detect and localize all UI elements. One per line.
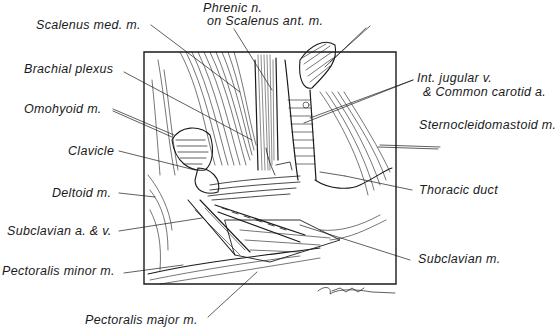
label-thoracic-duct: Thoracic duct <box>419 183 498 197</box>
label-brachial-plexus: Brachial plexus <box>24 62 113 76</box>
illustration-drawing <box>0 0 560 333</box>
label-omohyoid: Omohyoid m. <box>24 102 102 116</box>
label-scalenus-anterior: on Scalenus ant. m. <box>207 14 323 28</box>
sternocleidomastoid-retracted <box>300 42 392 195</box>
label-scalenus-medius: Scalenus med. m. <box>36 18 141 32</box>
label-pectoralis-minor: Pectoralis minor m. <box>2 264 115 278</box>
anatomy-figure: Scalenus med. m. Phrenic n. on Scalenus … <box>0 0 560 333</box>
artist-signature <box>318 287 395 294</box>
label-internal-jugular: Int. jugular v. <box>417 71 492 85</box>
label-subclavian-muscle: Subclavian m. <box>418 252 500 266</box>
scalenus-anterior <box>255 55 278 170</box>
label-common-carotid: & Common carotid a. <box>423 85 546 99</box>
label-deltoid: Deltoid m. <box>52 186 111 200</box>
muscle-fibers-left <box>152 52 256 175</box>
omohyoid-clavicle <box>172 128 219 193</box>
label-subclavian-artery-vein: Subclavian a. & v. <box>7 224 112 238</box>
label-pectoralis-major: Pectoralis major m. <box>85 313 198 327</box>
brachial-plexus-vessels <box>208 148 305 242</box>
label-phrenic-nerve: Phrenic n. <box>203 1 262 15</box>
label-clavicle: Clavicle <box>68 144 114 158</box>
label-sternocleidomastoid: Sternocleidomastoid m. <box>419 118 556 132</box>
